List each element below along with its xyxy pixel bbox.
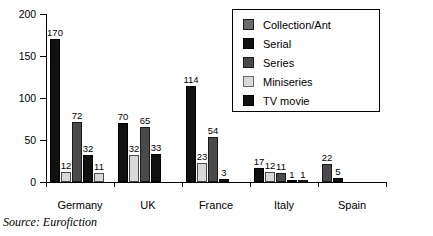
- bar: [265, 172, 275, 182]
- bar-value-label: 11: [87, 162, 111, 172]
- x-axis-tick: [182, 182, 183, 187]
- legend-item-label: Series: [263, 57, 294, 69]
- bar: [186, 86, 196, 182]
- x-axis-tick: [114, 182, 115, 187]
- bar: [197, 163, 207, 182]
- y-axis-tick-label: 200: [0, 9, 36, 19]
- bar-value-label: 1: [291, 170, 315, 180]
- bar-value-label: 22: [315, 153, 339, 163]
- y-axis-tick-label: 50: [0, 135, 36, 145]
- x-axis-tick: [250, 182, 251, 187]
- bar-value-label: 70: [111, 112, 135, 122]
- legend-item[interactable]: TV movie: [233, 91, 379, 110]
- bar-value-label: 33: [144, 143, 168, 153]
- bar-value-label: 114: [179, 75, 203, 85]
- legend-item-label: TV movie: [263, 95, 309, 107]
- legend-item[interactable]: Miniseries: [233, 72, 379, 91]
- legend-item-label: Miniseries: [263, 76, 313, 88]
- x-axis-group-label: Germany: [46, 199, 114, 211]
- y-axis-tick-label: 0: [0, 177, 36, 187]
- legend-item[interactable]: Serial: [233, 34, 379, 53]
- x-axis-group-label: Italy: [250, 199, 318, 211]
- legend-swatch-icon: [243, 76, 254, 87]
- bar: [151, 154, 161, 182]
- bar: [333, 178, 343, 182]
- legend-item-label: Collection/Ant: [263, 19, 331, 31]
- bar: [61, 172, 71, 182]
- bar: [129, 155, 139, 182]
- source-note: Source: Eurofiction: [3, 216, 97, 229]
- x-axis-tick: [318, 182, 319, 187]
- bar-value-label: 54: [201, 126, 225, 136]
- legend-swatch-icon: [243, 19, 254, 30]
- legend-item[interactable]: Series: [233, 53, 379, 72]
- chart-figure: 050100150200 GermanyUKFranceItalySpain 1…: [0, 0, 433, 236]
- legend-swatch-icon: [243, 38, 254, 49]
- bar-value-label: 65: [133, 116, 157, 126]
- bar: [219, 179, 229, 182]
- x-axis-group-label: UK: [114, 199, 182, 211]
- bar: [287, 180, 297, 182]
- chart-legend: Collection/AntSerialSeriesMiniseriesTV m…: [232, 9, 380, 112]
- legend-item-label: Serial: [263, 38, 291, 50]
- bar-value-label: 3: [212, 168, 236, 178]
- bar-value-label: 5: [326, 167, 350, 177]
- x-axis-tick: [46, 182, 47, 187]
- bar: [94, 173, 104, 182]
- x-axis-group-label: Spain: [318, 199, 386, 211]
- bar: [298, 180, 308, 182]
- bar-value-label: 170: [43, 28, 67, 38]
- legend-swatch-icon: [243, 57, 254, 68]
- y-axis-tick-label: 100: [0, 93, 36, 103]
- legend-item[interactable]: Collection/Ant: [233, 15, 379, 34]
- x-axis-group-label: France: [182, 199, 250, 211]
- bar-value-label: 72: [65, 111, 89, 121]
- y-axis-tick-label: 150: [0, 51, 36, 61]
- x-axis-line: [46, 182, 386, 183]
- legend-swatch-icon: [243, 95, 254, 106]
- bar-value-label: 32: [76, 144, 100, 154]
- x-axis-tick: [386, 182, 387, 187]
- bar: [140, 127, 150, 182]
